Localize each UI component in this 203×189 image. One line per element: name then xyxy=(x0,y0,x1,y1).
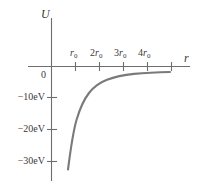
y-tick-label-minus30: −30eV xyxy=(7,156,45,166)
x-tick-label-2r0: 2r0 xyxy=(90,48,102,60)
potential-energy-figure: U r 0 r0 2r0 3r0 4r0 −10eV −20eV −30eV xyxy=(0,0,203,189)
x-tick-label-4r0: 4r0 xyxy=(138,48,150,60)
x-tick-label-3r0: 3r0 xyxy=(114,48,126,60)
origin-label: 0 xyxy=(41,70,46,80)
x-tick-label-3r0-sub: 0 xyxy=(123,52,127,60)
y-tick-label-minus20: −20eV xyxy=(7,124,45,134)
y-tick-label-minus10: −10eV xyxy=(7,92,45,102)
x-tick-label-4r0-sub: 0 xyxy=(147,52,151,60)
y-axis-label: U xyxy=(41,8,50,20)
x-tick-label-r0: r0 xyxy=(70,48,77,60)
x-tick-label-r0-sub: 0 xyxy=(74,52,78,60)
potential-energy-curve xyxy=(68,72,170,170)
x-axis-label: r xyxy=(184,52,189,64)
x-tick-label-2r0-sub: 0 xyxy=(99,52,103,60)
